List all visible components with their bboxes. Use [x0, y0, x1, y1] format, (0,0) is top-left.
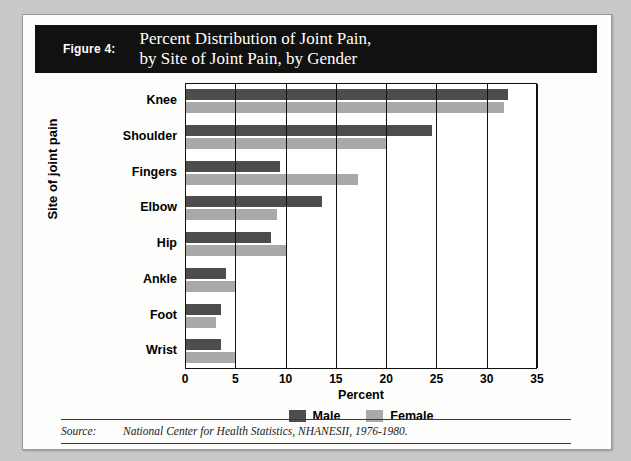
grid-line	[537, 84, 538, 368]
x-axis-title: Percent	[185, 388, 537, 402]
bar-hip-male	[186, 232, 271, 243]
source-note: Source: National Center for Health Stati…	[61, 425, 581, 437]
x-tick-15: 15	[329, 372, 342, 386]
bar-ankle-male	[186, 268, 226, 279]
x-tick-10: 10	[279, 372, 292, 386]
figure-card: Figure 4: Percent Distribution of Joint …	[22, 14, 612, 450]
source-label: Source:	[61, 425, 123, 437]
bar-shoulder-male	[186, 125, 432, 136]
figure-number-label: Figure 4:	[63, 42, 115, 56]
legend-swatch-male	[289, 410, 306, 422]
bar-fingers-female	[186, 174, 358, 185]
plot-frame	[185, 83, 537, 369]
chart-area: Site of joint pain KneeShoulderFingersEl…	[35, 77, 597, 407]
x-tick-5: 5	[232, 372, 239, 386]
y-tick-shoulder: Shoulder	[35, 129, 177, 143]
bar-hip-female	[186, 245, 287, 256]
grid-line	[487, 84, 488, 368]
page-root: Figure 4: Percent Distribution of Joint …	[0, 0, 631, 461]
bar-foot-male	[186, 304, 221, 315]
legend-item-male: Male	[289, 409, 341, 423]
grid-line	[235, 84, 236, 368]
y-axis-tick-labels: KneeShoulderFingersElbowHipAnkleFootWris…	[35, 83, 185, 369]
bar-wrist-male	[186, 339, 221, 350]
source-rule-top	[61, 419, 571, 420]
bar-foot-female	[186, 317, 216, 328]
x-tick-25: 25	[430, 372, 443, 386]
figure-title: Percent Distribution of Joint Pain, by S…	[139, 29, 371, 69]
grid-line	[336, 84, 337, 368]
bar-ankle-female	[186, 281, 236, 292]
legend-swatch-female	[366, 410, 383, 422]
grid-line	[386, 84, 387, 368]
y-tick-knee: Knee	[35, 93, 177, 107]
bar-shoulder-female	[186, 138, 387, 149]
source-rule-bottom	[61, 443, 571, 444]
x-tick-20: 20	[379, 372, 392, 386]
bar-elbow-male	[186, 196, 322, 207]
chart-legend: MaleFemale	[185, 409, 537, 423]
figure-title-banner: Figure 4: Percent Distribution of Joint …	[35, 25, 597, 73]
bar-elbow-female	[186, 209, 277, 220]
y-tick-elbow: Elbow	[35, 200, 177, 214]
bar-fingers-male	[186, 161, 280, 172]
y-tick-ankle: Ankle	[35, 272, 177, 286]
legend-item-female: Female	[366, 409, 433, 423]
bar-wrist-female	[186, 352, 236, 363]
bar-knee-female	[186, 102, 504, 113]
bar-knee-male	[186, 89, 508, 100]
y-tick-foot: Foot	[35, 308, 177, 322]
x-tick-0: 0	[182, 372, 189, 386]
legend-label-female: Female	[390, 409, 433, 423]
y-tick-fingers: Fingers	[35, 165, 177, 179]
x-tick-35: 35	[530, 372, 543, 386]
legend-label-male: Male	[313, 409, 341, 423]
x-tick-30: 30	[480, 372, 493, 386]
source-text: National Center for Health Statistics, N…	[123, 425, 408, 437]
y-tick-wrist: Wrist	[35, 343, 177, 357]
grid-line	[436, 84, 437, 368]
grid-line	[286, 84, 287, 368]
bars-layer	[186, 84, 536, 368]
y-tick-hip: Hip	[35, 236, 177, 250]
